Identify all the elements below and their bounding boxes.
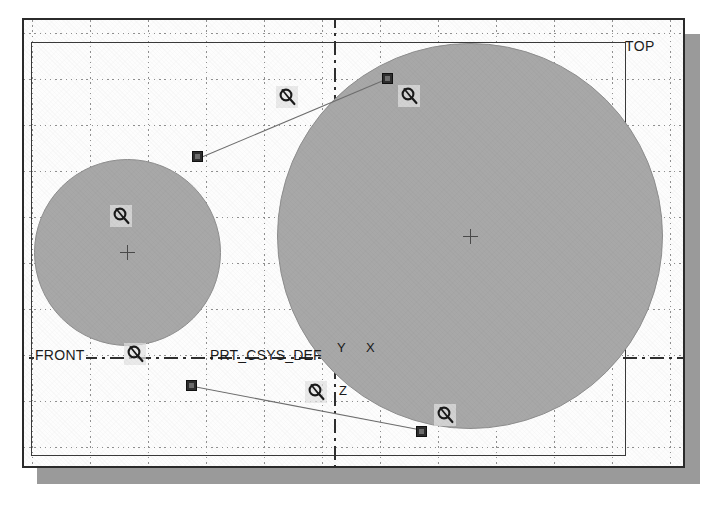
drag-glyph-front-left[interactable] <box>124 343 146 365</box>
drag-glyph-upper-left[interactable] <box>276 86 298 108</box>
drag-glyph-upper-right[interactable] <box>398 85 420 107</box>
axis-label-y: Y <box>337 340 346 355</box>
drag-rotate-icon <box>110 205 132 227</box>
coordinate-system-label: PRT_CSYS_DEF <box>210 347 322 363</box>
graphics-viewport[interactable]: TOP FRONT PRT_CSYS_DEF Y X Z <box>22 18 685 468</box>
small-circle-center-mark <box>120 245 135 260</box>
cad-viewport-screenshot: TOP FRONT PRT_CSYS_DEF Y X Z <box>0 0 702 506</box>
drag-rotate-icon <box>434 404 456 426</box>
drag-glyph-small-circle[interactable] <box>110 205 132 227</box>
axis-label-x: X <box>366 340 375 355</box>
drag-rotate-icon <box>305 381 327 403</box>
drag-glyph-csys[interactable] <box>305 381 327 403</box>
grid-line-horizontal <box>24 33 683 34</box>
handle-upper-right[interactable] <box>382 73 393 84</box>
datum-plane-front-label: FRONT <box>34 347 86 363</box>
drag-rotate-icon <box>276 86 298 108</box>
drag-rotate-icon <box>124 343 146 365</box>
grid-line-vertical <box>670 20 671 466</box>
datum-plane-top-label: TOP <box>625 38 655 54</box>
handle-upper-left[interactable] <box>192 151 203 162</box>
handle-lower-left[interactable] <box>186 380 197 391</box>
drag-rotate-icon <box>398 85 420 107</box>
handle-lower-right[interactable] <box>416 426 427 437</box>
axis-label-z: Z <box>339 383 347 398</box>
large-circle-center-mark <box>463 229 478 244</box>
drag-glyph-lower-right[interactable] <box>434 404 456 426</box>
